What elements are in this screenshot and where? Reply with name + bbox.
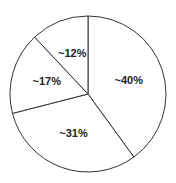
slice-label-4: ~12% (58, 47, 87, 59)
slice-label-3: ~17% (33, 75, 62, 87)
pie-chart: ~40%~31%~17%~12% (0, 0, 176, 183)
slice-label-2: ~31% (59, 127, 88, 139)
slice-label-1: ~40% (115, 74, 144, 86)
